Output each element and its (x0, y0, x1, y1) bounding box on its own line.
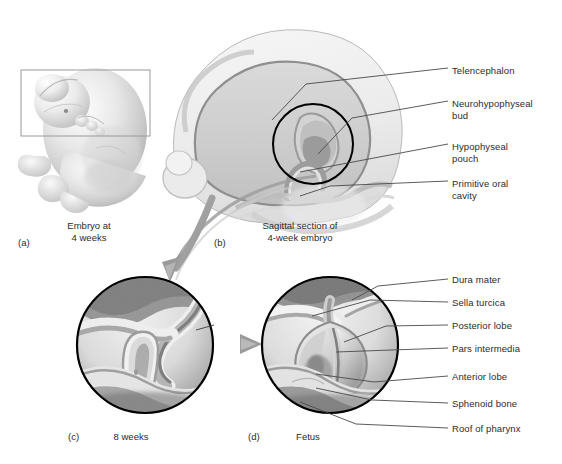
caption-panel-b-line2: 4-week embryo (242, 232, 358, 244)
caption-panel-a-line1: Embryo at (46, 220, 132, 232)
panel-c-8-weeks (75, 277, 215, 424)
panel-letter-d: (d) (248, 431, 260, 442)
label-roof-of-pharynx: Roof of pharynx (452, 423, 521, 435)
label-hypophyseal-pouch-line2: pouch (452, 153, 478, 165)
caption-panel-b-line1: Sagittal section of (242, 220, 358, 232)
caption-panel-d-line1: Fetus (276, 431, 340, 443)
label-primitive-oral-cavity-line2: cavity (452, 190, 477, 202)
label-posterior-lobe: Posterior lobe (452, 320, 512, 332)
caption-panel-a-line2: 4 weeks (46, 232, 132, 244)
panel-letter-b: (b) (214, 237, 226, 248)
pituitary-development-figure: Telencephalon Neurohypophyseal bud Hypop… (0, 0, 562, 464)
caption-panel-c-line1: 8 weeks (96, 431, 166, 443)
panel-letter-a: (a) (18, 237, 30, 248)
label-telencephalon: Telencephalon (452, 65, 515, 77)
panel-letter-c: (c) (68, 431, 79, 442)
label-anterior-lobe: Anterior lobe (452, 371, 507, 383)
label-dura-mater: Dura mater (452, 274, 501, 286)
label-sella-turcica: Sella turcica (452, 297, 505, 309)
label-hypophyseal-pouch: Hypophyseal (452, 141, 508, 153)
arrow-b-to-c (162, 198, 212, 282)
label-neurohypophyseal-bud: Neurohypophyseal (452, 98, 533, 110)
label-sphenoid-bone: Sphenoid bone (452, 398, 517, 410)
label-primitive-oral-cavity: Primitive oral (452, 178, 508, 190)
panel-a-embryo-illustration (18, 33, 153, 213)
label-pars-intermedia: Pars intermedia (452, 343, 520, 355)
label-neurohypophyseal-bud-line2: bud (452, 110, 468, 122)
